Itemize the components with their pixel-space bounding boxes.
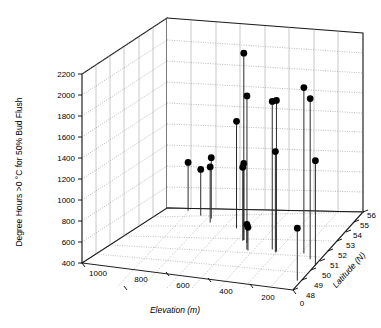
z-tick-label-1800: 1800 xyxy=(57,112,75,121)
y-tick-label-54: 54 xyxy=(353,231,362,240)
data-point-marker xyxy=(312,157,319,164)
y-tick-label-50: 50 xyxy=(322,271,331,280)
y-tick-label-55: 55 xyxy=(360,221,369,230)
data-point-marker xyxy=(294,225,301,232)
z-tick-label-2000: 2000 xyxy=(57,91,75,100)
plot-canvas: 400 600 800 1000 1200 1400 1600 1800 200… xyxy=(0,0,381,328)
data-point-marker xyxy=(185,159,192,166)
z-tick-label-1400: 1400 xyxy=(57,154,75,163)
y-tick-label-56: 56 xyxy=(367,211,376,220)
x-tick-0 xyxy=(293,290,296,294)
y-tick-label-49: 49 xyxy=(314,281,323,290)
y-tick-label-52: 52 xyxy=(338,251,347,260)
data-point-marker xyxy=(240,50,247,57)
z-tick-label-2200: 2200 xyxy=(57,70,75,79)
z-tick-label-800: 800 xyxy=(62,217,76,226)
y-tick-label-48: 48 xyxy=(306,291,315,300)
x-tick-label-0: 0 xyxy=(300,299,305,308)
data-point-marker xyxy=(239,164,246,171)
x-tick-label-800: 800 xyxy=(134,275,148,284)
data-point-marker xyxy=(272,148,279,155)
z-tick-label-1000: 1000 xyxy=(57,196,75,205)
data-point-marker xyxy=(233,118,240,125)
z-axis: 400 600 800 1000 1200 1400 1600 1800 200… xyxy=(14,70,82,268)
y-tick-label-53: 53 xyxy=(346,241,355,250)
z-tick-label-600: 600 xyxy=(62,238,76,247)
z-tick-label-1200: 1200 xyxy=(57,175,75,184)
z-tick-label-1600: 1600 xyxy=(57,133,75,142)
data-point-marker xyxy=(208,154,215,161)
figure-3d-scatter: 400 600 800 1000 1200 1400 1600 1800 200… xyxy=(0,0,381,328)
data-point-marker xyxy=(300,84,307,91)
back-right-wall xyxy=(167,18,363,212)
z-axis-title: Degree Hours >0 °C for 50% Bud Flush xyxy=(14,97,24,246)
data-point-marker xyxy=(307,95,314,102)
x-tick-label-400: 400 xyxy=(219,287,233,296)
x-tick-label-200: 200 xyxy=(261,293,275,302)
x-tick-label-1000: 1000 xyxy=(89,269,107,278)
data-point-marker xyxy=(197,166,204,173)
data-point-marker xyxy=(244,93,251,100)
x-axis-title: Elevation (m) xyxy=(150,305,200,315)
data-point-marker xyxy=(273,97,280,104)
x-tick-label-600: 600 xyxy=(176,281,190,290)
y-tick-label-51: 51 xyxy=(330,261,339,270)
z-tick-label-400: 400 xyxy=(62,259,76,268)
x-tick-800 xyxy=(124,286,127,290)
data-point-marker xyxy=(245,224,252,231)
data-point-marker xyxy=(207,164,214,171)
